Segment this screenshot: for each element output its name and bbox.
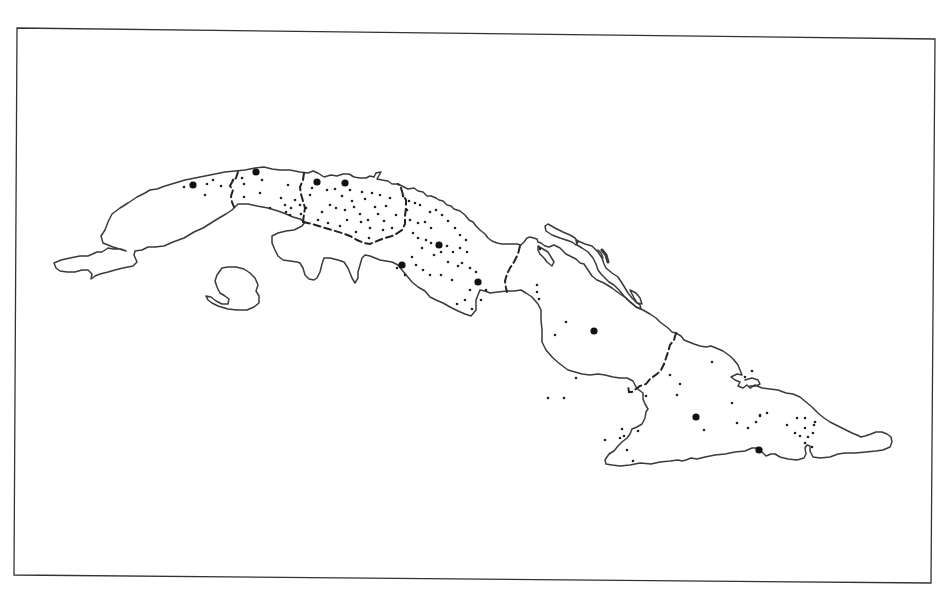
map-frame [14,28,935,583]
locality-dot [547,397,550,400]
locality-dot [440,274,443,277]
locality-dot [353,206,356,209]
locality-dot [744,376,747,379]
cuba-main-island-outline [54,167,892,466]
locality-dot [377,213,380,216]
locality-dot [334,188,337,191]
locality-dot [371,192,374,195]
locality-dot [563,397,566,400]
locality-dot [284,204,287,207]
major-city-dot [252,168,259,175]
locality-dot [326,189,329,192]
locality-dot [422,269,425,272]
locality-dot [469,289,472,292]
locality-dot [404,274,407,277]
locality-dot [703,429,706,432]
locality-dot [406,209,409,212]
locality-dot [759,415,762,418]
locality-dot [429,211,432,214]
locality-dot [335,207,338,210]
locality-dot [360,221,363,224]
locality-dot [536,291,539,294]
locality-dot [183,186,186,189]
locality-dot [364,198,367,201]
locality-dot [408,200,411,203]
locality-dot [329,204,332,207]
locality-dot [814,421,817,424]
locality-dot [417,222,420,225]
locality-dot [786,424,789,427]
locality-dot [619,437,622,440]
locality-dot [289,214,292,217]
locality-dots [183,177,817,463]
locality-dot [565,321,568,324]
locality-dot [430,242,433,245]
locality-dot [447,261,450,264]
locality-dot [441,214,444,217]
locality-dot [327,222,330,225]
locality-dot [212,179,215,182]
major-city-dot [435,241,442,248]
locality-dot [766,412,769,415]
isla-de-la-juventud-outline [206,267,259,310]
locality-dot [755,421,758,424]
locality-dot [402,195,405,198]
locality-dot [807,436,810,439]
locality-dot [341,195,344,198]
locality-dot [396,267,399,270]
locality-dot [623,435,626,438]
locality-dot [736,422,739,425]
locality-dot [471,308,474,311]
locality-dot [794,432,797,435]
northern-cays-outline [545,224,578,245]
locality-dot [452,251,455,254]
locality-dot [355,231,358,234]
major-city-dot [474,278,481,285]
locality-dot [575,377,578,380]
locality-dot [414,202,417,205]
locality-dot [417,237,420,240]
locality-dot [456,303,459,306]
locality-dot [435,209,438,212]
locality-dot [409,219,412,222]
locality-dot [383,220,386,223]
northern-cays-outline-2 [576,240,641,309]
locality-dot [309,194,312,197]
locality-dot [451,279,454,282]
locality-dot [389,197,392,200]
locality-dot [711,361,714,364]
locality-dot [554,334,557,337]
locality-dot [361,191,364,194]
locality-dot [311,187,314,190]
locality-dot [536,284,539,287]
locality-dot [457,265,460,268]
locality-dot [280,197,283,200]
locality-dot [259,192,262,195]
locality-dot [632,460,635,463]
boundary-lasvillas-camaguey [505,246,520,292]
major-city-dot [755,446,762,453]
locality-dot [344,209,347,212]
locality-dot [440,251,443,254]
locality-dot [368,237,371,240]
locality-dot [812,432,815,435]
locality-dot [391,227,394,230]
locality-dot [232,179,235,182]
locality-dot [475,271,478,274]
locality-dot [459,247,462,250]
locality-dot [285,211,288,214]
major-city-dot [313,178,320,185]
locality-dot [317,219,320,222]
locality-dot [461,262,464,265]
locality-dot [294,199,297,202]
locality-dot [751,370,754,373]
locality-dot [679,383,682,386]
major-city-dot [189,181,196,188]
locality-dot [447,220,450,223]
locality-dot [796,417,799,420]
major-city-dot [398,261,405,268]
locality-dot [459,234,462,237]
locality-dot [300,213,303,216]
locality-dot [433,254,436,257]
locality-dot [804,427,807,430]
